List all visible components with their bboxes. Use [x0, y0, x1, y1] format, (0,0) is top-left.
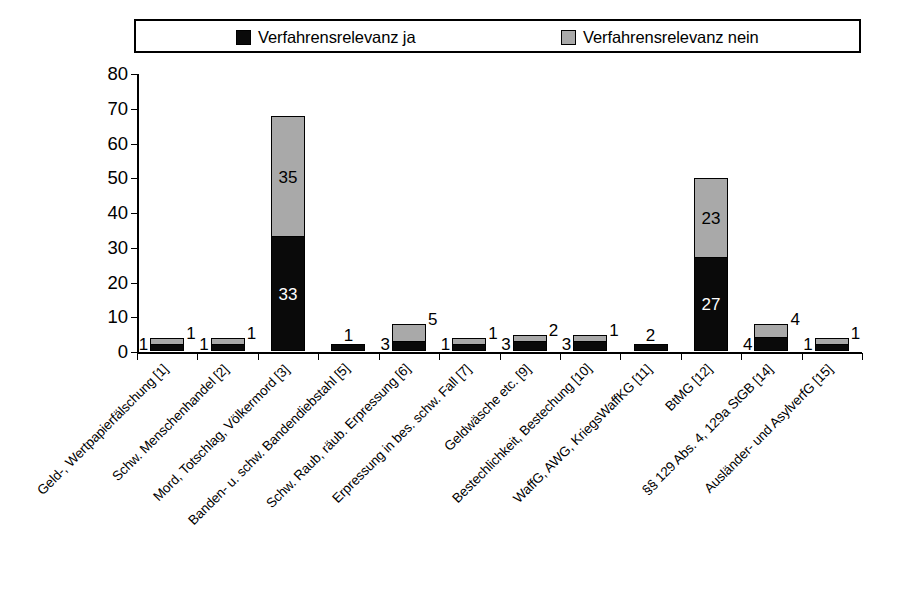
y-axis-line	[137, 74, 139, 353]
bar-group[interactable]: 31	[573, 335, 607, 350]
x-axis-category-label: §§ 129 Abs. 4, 129a StGB [14]	[640, 362, 775, 497]
y-axis-tick	[131, 213, 137, 214]
x-axis-tick	[741, 353, 742, 360]
plot-area: 01020304050607080 1111333513511323122723…	[137, 74, 862, 352]
x-axis-category-label: Mord, Totschlag, Völkermord [3]	[151, 362, 292, 503]
y-axis-tick-label: 70	[107, 100, 128, 119]
x-axis-tick	[258, 353, 259, 360]
bar-value-label-nein: 1	[609, 322, 618, 339]
x-axis-category-label: Geld-, Wertpapierfälschung [1]	[35, 362, 171, 498]
legend-entry-verfahrensrelevanz-ja: Verfahrensrelevanz ja	[236, 26, 416, 48]
x-axis-category-label: Schw. Menschenhandel [2]	[110, 362, 231, 483]
bar-value-label-ja: 1	[344, 327, 353, 344]
x-axis-category-label: Erpressung in bes. schw. Fall [7]	[330, 362, 473, 505]
bar-group[interactable]: 35	[392, 324, 426, 350]
y-axis-tick	[131, 144, 137, 145]
bar-value-label-nein: 35	[272, 168, 304, 185]
bar-group[interactable]: 11	[452, 338, 486, 350]
x-axis-tick	[802, 353, 803, 360]
bar-segment-nein[interactable]: 35	[271, 116, 305, 238]
x-axis-tick	[137, 353, 138, 360]
bar-segment-ja[interactable]: 4	[754, 337, 788, 351]
bar-segment-nein[interactable]: 2	[513, 335, 547, 342]
bar-group[interactable]: 11	[815, 338, 849, 350]
y-axis-tick	[131, 317, 137, 318]
bar-value-label-nein: 23	[695, 210, 727, 227]
bar-value-label-ja: 33	[272, 285, 304, 302]
y-axis-tick	[131, 248, 137, 249]
y-axis-tick-label: 40	[107, 204, 128, 223]
bar-segment-nein[interactable]: 1	[452, 338, 486, 345]
y-axis-tick-label: 30	[107, 239, 128, 258]
bar-value-label-nein: 2	[549, 322, 558, 339]
bar-value-label-ja: 1	[803, 336, 812, 353]
bar-segment-nein[interactable]: 1	[150, 338, 184, 345]
x-axis-tick	[560, 353, 561, 360]
bar-segment-ja[interactable]: 3	[392, 341, 426, 351]
bar-value-label-ja: 4	[743, 336, 752, 353]
x-axis-tick	[197, 353, 198, 360]
bar-segment-nein[interactable]: 5	[392, 324, 426, 341]
bar-group[interactable]: 44	[754, 324, 788, 350]
bar-segment-ja[interactable]: 3	[573, 341, 607, 351]
bar-group[interactable]: 11	[150, 338, 184, 350]
y-axis-tick-label: 0	[118, 343, 128, 362]
bar-value-label-ja: 1	[199, 336, 208, 353]
bar-group[interactable]: 1	[331, 344, 365, 350]
bar-segment-ja[interactable]: 1	[452, 344, 486, 351]
bar-segment-ja[interactable]: 1	[331, 344, 365, 351]
x-axis-category-label: Schw. Raub, räub. Erpressung [6]	[264, 362, 413, 511]
bar-segment-nein[interactable]: 1	[211, 338, 245, 345]
bar-segment-nein[interactable]: 23	[694, 178, 728, 258]
bar-segment-ja[interactable]: 27	[694, 257, 728, 351]
bar-chart: Verfahrensrelevanz ja Verfahrensrelevanz…	[0, 0, 900, 591]
x-axis-tick	[862, 353, 863, 360]
x-axis-category-label: Bestechlichkeit, Bestechung [10]	[450, 362, 594, 506]
y-axis-tick-label: 80	[107, 65, 128, 84]
bar-group[interactable]: 2723	[694, 178, 728, 350]
bar-segment-ja[interactable]: 2	[634, 344, 668, 351]
bar-value-label-ja: 1	[441, 336, 450, 353]
y-axis-tick-label: 50	[107, 169, 128, 188]
x-axis-category-label: WaffG, AWG, KriegsWaffKG [11]	[511, 362, 654, 505]
bar-value-label-nein: 1	[488, 325, 497, 342]
y-axis-tick	[131, 178, 137, 179]
bar-value-label-ja: 2	[646, 327, 655, 344]
bar-group[interactable]: 3335	[271, 116, 305, 350]
y-axis-tick	[131, 74, 137, 75]
legend-swatch-nein	[561, 30, 576, 45]
bar-value-label-nein: 5	[428, 311, 437, 328]
x-axis-tick	[681, 353, 682, 360]
bar-value-label-ja: 3	[380, 336, 389, 353]
bar-value-label-ja: 3	[562, 336, 571, 353]
y-axis-tick	[131, 283, 137, 284]
bar-segment-ja[interactable]: 1	[815, 344, 849, 351]
x-axis-tick	[439, 353, 440, 360]
legend-label-nein: Verfahrensrelevanz nein	[583, 28, 759, 47]
bar-value-label-nein: 1	[247, 325, 256, 342]
bar-group[interactable]: 32	[513, 335, 547, 350]
bar-segment-ja[interactable]: 1	[150, 344, 184, 351]
bar-segment-nein[interactable]: 4	[754, 324, 788, 338]
legend-swatch-ja	[236, 30, 251, 45]
legend-label-ja: Verfahrensrelevanz ja	[258, 28, 416, 47]
bar-segment-nein[interactable]: 1	[815, 338, 849, 345]
y-axis-tick-label: 20	[107, 273, 128, 292]
x-axis-tick	[620, 353, 621, 360]
bar-segment-ja[interactable]: 33	[271, 236, 305, 351]
x-axis-category-label: BtMG [12]	[663, 362, 715, 414]
bar-group[interactable]: 2	[634, 344, 668, 350]
bar-segment-ja[interactable]: 1	[211, 344, 245, 351]
y-axis-tick-label: 60	[107, 134, 128, 153]
x-axis-category-label: Banden- u. schw. Bandendiebstahl [5]	[186, 362, 352, 528]
chart-legend: Verfahrensrelevanz ja Verfahrensrelevanz…	[134, 19, 861, 53]
bar-value-label-ja: 27	[695, 296, 727, 313]
bar-value-label-nein: 1	[851, 325, 860, 342]
bar-segment-nein[interactable]: 1	[573, 335, 607, 342]
bar-segment-ja[interactable]: 3	[513, 341, 547, 351]
bar-value-label-nein: 1	[186, 325, 195, 342]
x-axis-category-label: Ausländer- und AsylverfG [15]	[702, 362, 835, 495]
y-axis-tick	[131, 109, 137, 110]
bar-value-label-ja: 3	[501, 336, 510, 353]
bar-group[interactable]: 11	[211, 338, 245, 350]
